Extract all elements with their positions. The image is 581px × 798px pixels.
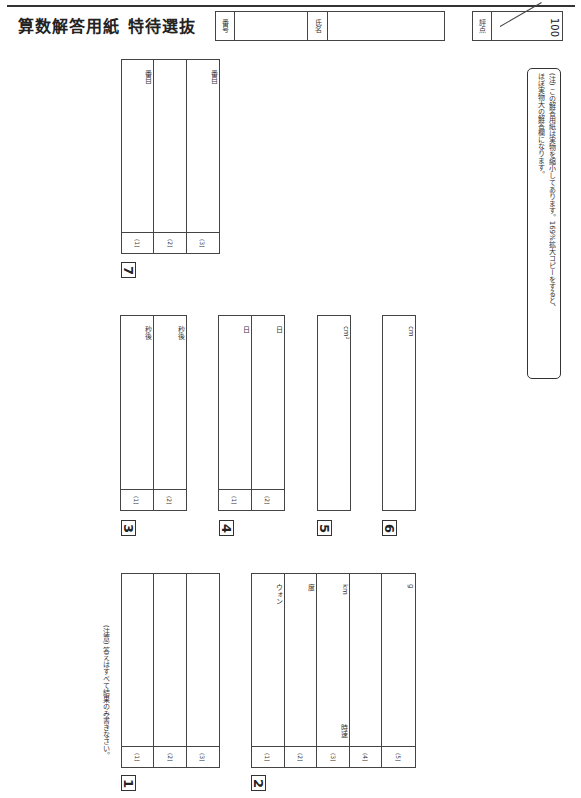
item-number: (3) xyxy=(317,746,349,767)
number-box: 番号 xyxy=(215,11,308,41)
answer-cell[interactable]: km 時速 (3) xyxy=(317,574,350,767)
unit-label: cm² xyxy=(318,326,350,339)
answer-cell[interactable]: g (5) xyxy=(382,574,415,767)
top-rule xyxy=(7,5,575,7)
unit-label: g xyxy=(382,584,415,588)
answer-cell[interactable]: (3) xyxy=(187,574,219,767)
unit-label: 日 xyxy=(219,326,251,333)
score-label: 評点 xyxy=(473,12,492,40)
score-field[interactable]: 100 xyxy=(492,12,562,40)
section-2-marker: 2 xyxy=(251,775,266,791)
section-3-grid: 秒後 (1) 秒後 (2) xyxy=(120,315,187,511)
score-box: 評点 100 xyxy=(472,11,563,41)
answer-cell[interactable]: 秒後 (1) xyxy=(121,316,154,510)
unit-label: ウォン xyxy=(252,584,284,605)
section-4-marker: 4 xyxy=(219,520,234,536)
item-number: (1) xyxy=(252,746,284,767)
section-7-marker: 7 xyxy=(121,262,136,278)
item-number: (2) xyxy=(154,489,187,510)
item-number: (3) xyxy=(187,746,219,767)
unit-label: 度 xyxy=(285,584,317,591)
section-4-grid: 日 (1) 日 (2) xyxy=(218,315,285,511)
page-subtitle: 特待選抜 xyxy=(128,13,196,37)
number-label: 番号 xyxy=(216,12,235,40)
name-box: 氏名 xyxy=(307,11,445,41)
section-6-answer[interactable]: cm xyxy=(382,315,416,511)
unit-label: 番目 xyxy=(122,70,153,84)
unit-label: 日 xyxy=(252,326,285,333)
answer-cell[interactable]: 度 (2) xyxy=(285,574,318,767)
section-5-answer[interactable]: cm² xyxy=(317,315,351,511)
answer-cell[interactable]: 番目 (1) xyxy=(122,60,154,253)
unit-label: 番目 xyxy=(187,70,219,84)
answer-cell[interactable]: ウォン (1) xyxy=(252,574,285,767)
reduction-note: (注) この解答用紙は実物を縮小してあります。169%拡大コピーをすると、 ほぼ… xyxy=(527,68,561,379)
answer-cell[interactable]: 秒後 (2) xyxy=(154,316,187,510)
prefix-label: 時速 xyxy=(317,724,349,738)
section-5-marker: 5 xyxy=(317,520,332,536)
item-number: (1) xyxy=(122,746,153,767)
item-number: (2) xyxy=(285,746,317,767)
answer-cell[interactable]: (2) xyxy=(154,60,186,253)
item-number: (1) xyxy=(121,489,153,510)
answer-cell[interactable]: 日 (1) xyxy=(219,316,252,510)
section-1-marker: 1 xyxy=(121,775,136,791)
section-3-marker: 3 xyxy=(121,520,136,536)
item-number: (2) xyxy=(154,232,185,253)
section-1-grid: (1) (2) (3) xyxy=(121,573,220,768)
answer-cell[interactable]: 番目 (3) xyxy=(187,60,219,253)
page-title: 算数解答用紙 xyxy=(18,13,120,37)
score-max: 100 xyxy=(549,18,560,37)
number-field[interactable] xyxy=(235,12,307,40)
answer-cell[interactable]: 日 (2) xyxy=(252,316,285,510)
section-2-grid: ウォン (1) 度 (2) km 時速 (3) (4) g (5) xyxy=(251,573,416,768)
name-field[interactable] xyxy=(328,12,444,40)
unit-label: 秒後 xyxy=(121,326,153,340)
name-label: 氏名 xyxy=(308,12,328,40)
item-number: (2) xyxy=(252,489,285,510)
section-7-grid: 番目 (1) (2) 番目 (3) xyxy=(121,59,220,254)
section-6-marker: 6 xyxy=(382,520,397,536)
answer-cell[interactable]: (2) xyxy=(154,574,186,767)
item-number: (3) xyxy=(187,232,219,253)
instructions-notice: (注意) 答えはすべて結果のみ書きなさい。 xyxy=(101,625,111,759)
unit-label: cm xyxy=(383,326,415,337)
item-number: (5) xyxy=(382,746,415,767)
item-number: (4) xyxy=(350,746,382,767)
item-number: (2) xyxy=(154,746,185,767)
item-number: (1) xyxy=(122,232,153,253)
item-number: (1) xyxy=(219,489,251,510)
answer-cell[interactable]: (1) xyxy=(122,574,154,767)
unit-label: 秒後 xyxy=(154,326,187,340)
unit-label: km xyxy=(317,584,349,595)
answer-cell[interactable]: (4) xyxy=(350,574,383,767)
